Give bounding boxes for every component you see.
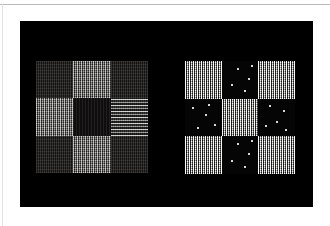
- texture-dot: [248, 78, 250, 80]
- texture-dot: [208, 104, 210, 106]
- texture-dot: [265, 125, 267, 127]
- left-divider-rule: [2, 4, 3, 226]
- cell-r2-c1: [73, 136, 110, 173]
- cell-r1-c1: [73, 98, 110, 135]
- texture-dot: [283, 110, 285, 112]
- texture-dot: [244, 90, 246, 92]
- cell-r1-c2: [258, 99, 295, 137]
- cell-r2-c2: [111, 136, 148, 173]
- cell-r0-c2: [258, 61, 295, 99]
- texture-dot: [237, 68, 239, 70]
- texture-dot: [244, 166, 246, 168]
- cell-r0-c1: [73, 61, 110, 98]
- cell-r2-c1: [222, 136, 259, 174]
- texture-dot: [251, 65, 253, 67]
- texture-dot: [231, 84, 233, 86]
- cell-r0-c0: [185, 61, 222, 99]
- cell-r0-c2: [111, 61, 148, 98]
- cell-r0-c1: [222, 61, 259, 99]
- cell-r1-c2: [111, 98, 148, 135]
- texture-dot: [248, 153, 250, 155]
- cell-r0-c0: [36, 61, 73, 98]
- texture-dot: [285, 129, 287, 131]
- checkerboard-right: [185, 61, 295, 174]
- texture-dot: [276, 121, 278, 123]
- texture-dot: [251, 140, 253, 142]
- texture-dot: [237, 143, 239, 145]
- texture-dot: [192, 107, 194, 109]
- cell-r2-c0: [185, 136, 222, 174]
- texture-dot: [197, 127, 199, 129]
- cell-r2-c2: [258, 136, 295, 174]
- checkerboard-left: [36, 61, 148, 173]
- texture-dot: [231, 160, 233, 162]
- cell-r2-c0: [36, 136, 73, 173]
- cell-r1-c0: [185, 99, 222, 137]
- top-divider-rule: [0, 4, 330, 5]
- figure-panel: [20, 21, 313, 207]
- figure-page: [0, 0, 330, 226]
- cell-r1-c0: [36, 98, 73, 135]
- texture-dot: [214, 124, 216, 126]
- texture-dot: [205, 114, 207, 116]
- texture-dot: [269, 105, 271, 107]
- cell-r1-c1: [222, 99, 259, 137]
